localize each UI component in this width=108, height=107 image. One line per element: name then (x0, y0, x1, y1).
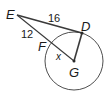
label-length-ef: 12 (21, 28, 33, 40)
label-length-fg: x (55, 51, 62, 62)
label-length-ed: 16 (48, 12, 60, 24)
label-point-e: E (6, 7, 15, 22)
label-point-d: D (81, 19, 90, 34)
label-point-g: G (69, 65, 79, 80)
segment-dg (74, 33, 82, 61)
label-point-f: F (38, 39, 47, 54)
geometry-diagram: E D F G 16 12 x (0, 0, 108, 107)
point-g-dot (73, 60, 76, 63)
